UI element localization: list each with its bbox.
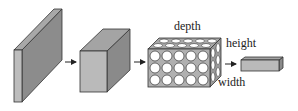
width-label: width [218, 76, 245, 88]
diagram-canvas: depth height width [0, 0, 298, 111]
diagram-svg [0, 0, 298, 111]
neuron-volume [148, 38, 221, 87]
depth-label: depth [174, 20, 201, 32]
input-slab [14, 9, 62, 102]
front-neurons [150, 51, 208, 85]
output-bar [241, 57, 283, 71]
volume-cube [80, 29, 130, 92]
height-label: height [226, 37, 256, 49]
